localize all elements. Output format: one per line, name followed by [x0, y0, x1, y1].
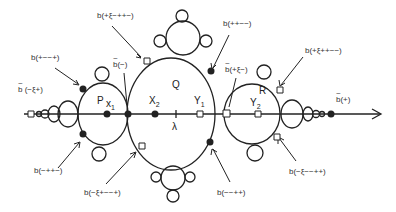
p-bottom-bulb	[92, 147, 106, 161]
x2-sub: 2	[156, 101, 160, 108]
region-r-label: R	[259, 86, 266, 96]
marker-btilde-minus-xi-plus	[28, 111, 34, 117]
region-q-label: Q	[172, 80, 180, 90]
region-p-label: P	[97, 96, 104, 106]
annotation-b-plusplus-minusminus: b(++−−)	[223, 20, 251, 28]
q-top-bulb	[166, 21, 200, 55]
q-top-right-bulb	[200, 35, 212, 47]
btilde-minus-text: b(−)	[113, 61, 127, 69]
q-top-small-bulb	[176, 10, 188, 22]
marker-btilde-plus-xi-minus	[223, 110, 230, 117]
marker-b-minus-plusplus-minus	[80, 131, 87, 138]
point-y1-label: Y1	[194, 96, 205, 108]
annotation-b-minusminus-plusplus: b(−−++)	[217, 189, 245, 197]
y2-sub: 2	[257, 103, 261, 110]
q-bottom-small-bulb	[167, 190, 179, 202]
marker-b-plusplus-minusminus	[208, 68, 215, 75]
marker-b-minusminus-plusplus	[207, 139, 214, 146]
marker-b-minus-xi-plus-minusminus-plus	[139, 143, 145, 149]
annotation-b-plus-minusminus-plus: b(+−−+)	[31, 54, 59, 62]
r-top-bulb	[257, 65, 271, 79]
q-bottom-left-bulb	[151, 172, 161, 182]
point-y2-label: Y2	[250, 98, 261, 110]
point-lambda-label: λ	[172, 122, 177, 132]
marker-btilde-plus	[328, 111, 335, 118]
x1-sub: 1	[111, 104, 115, 111]
y1-sub: 1	[201, 101, 205, 108]
annotation-btilde-minus-xi-plus: b (−ξ+)	[18, 86, 43, 94]
marker-b-minus-xi-minusminus-plusplus	[274, 134, 280, 140]
annotation-btilde-plus: b(+)	[336, 96, 350, 104]
point-x2-marker	[152, 111, 159, 118]
r-bottom-bulb	[247, 145, 263, 161]
annotation-b-plus-xi-minus-plusplus-minus: b(+ξ−++−)	[97, 12, 134, 20]
point-x1-label: x1	[106, 99, 115, 111]
annotation-b-minus-xi-minusminus-plusplus: b(−ξ−−++)	[289, 168, 326, 176]
point-x2-label: X2	[149, 96, 160, 108]
btilde-plus-xi-minus-text: b(+ξ−)	[225, 66, 248, 74]
marker-b-plus-minusminus-plus	[80, 86, 87, 93]
annotation-btilde-plus-xi-minus: b(+ξ−)	[225, 66, 248, 74]
point-pq-junction	[125, 111, 132, 118]
btilde-plus-text: b(+)	[336, 96, 350, 104]
point-y2-marker	[255, 111, 261, 117]
annotation-b-plus-xi-plusplus-minusminus: b(+ξ++−−)	[305, 47, 342, 55]
point-y1-marker	[197, 111, 203, 117]
y1-base: Y	[194, 95, 201, 106]
marker-b-plus-xi-minus-plusplus-minus	[144, 58, 150, 64]
annotation-btilde-minus: b(−)	[113, 61, 127, 69]
q-bottom-right-bulb	[185, 172, 195, 182]
point-x1-marker	[104, 111, 111, 118]
annotation-b-minus-plusplus-minus: b(−++−)	[34, 167, 62, 175]
p-top-bulb	[95, 67, 109, 81]
marker-b-plus-xi-plusplus-minusminus	[277, 87, 283, 93]
annotation-b-minus-xi-plus-minusminus-plus: b(−ξ+−−+)	[84, 189, 121, 197]
x2-base: X	[149, 95, 156, 106]
q-top-left-bulb	[154, 35, 166, 47]
y2-base: Y	[250, 97, 257, 108]
btilde-minus-xi-plus-text: b (−ξ+)	[18, 86, 43, 94]
